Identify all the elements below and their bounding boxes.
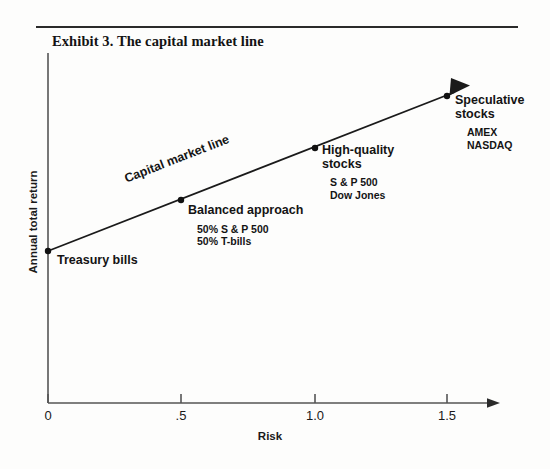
x-tick-label-0: 0: [28, 408, 68, 423]
annotation-high-quality-stocks-sub2: Dow Jones: [330, 189, 394, 202]
x-axis-arrowhead: [487, 398, 500, 408]
annotation-high-quality-stocks-title-line1: High-quality: [322, 144, 394, 158]
x-tick-label-1-0: 1.0: [295, 408, 335, 423]
annotation-speculative-stocks-title: Speculative stocks: [455, 94, 524, 121]
annotation-speculative-stocks-sub1: AMEX: [467, 126, 524, 139]
annotation-high-quality-stocks-sub1: S & P 500: [330, 176, 394, 189]
x-tick-label-0-5: .5: [161, 408, 201, 423]
annotation-high-quality-stocks-title-line2: stocks: [322, 158, 394, 172]
data-point-speculative-stocks: [444, 93, 450, 99]
annotation-balanced-approach-sublines: 50% S & P 500 50% T-bills: [197, 223, 303, 248]
x-axis-title: Risk: [220, 430, 320, 442]
annotation-balanced-approach: Balanced approach 50% S & P 500 50% T-bi…: [188, 204, 303, 248]
data-point-treasury-bills: [45, 248, 51, 254]
annotation-speculative-stocks-sublines: AMEX NASDAQ: [467, 126, 524, 151]
annotation-treasury-bills-title: Treasury bills: [57, 254, 138, 268]
data-point-high-quality-stocks: [312, 145, 318, 151]
annotation-speculative-stocks-title-line2: stocks: [455, 108, 524, 122]
annotation-treasury-bills: Treasury bills: [57, 254, 138, 268]
y-axis-title: Annual total return: [27, 162, 39, 282]
annotation-balanced-approach-title: Balanced approach: [188, 204, 303, 218]
annotation-speculative-stocks-title-line1: Speculative: [455, 94, 524, 108]
annotation-high-quality-stocks-title: High-quality stocks: [322, 144, 394, 171]
annotation-high-quality-stocks-sublines: S & P 500 Dow Jones: [330, 176, 394, 201]
annotation-speculative-stocks-sub2: NASDAQ: [467, 139, 524, 152]
annotation-high-quality-stocks: High-quality stocks S & P 500 Dow Jones: [322, 144, 394, 201]
exhibit-figure: Exhibit 3. The capital market line Capit…: [0, 0, 550, 469]
data-point-balanced-approach: [178, 197, 184, 203]
annotation-balanced-approach-sub2: 50% T-bills: [197, 235, 303, 248]
x-tick-label-1-5: 1.5: [427, 408, 467, 423]
annotation-balanced-approach-sub1: 50% S & P 500: [197, 223, 303, 236]
annotation-speculative-stocks: Speculative stocks AMEX NASDAQ: [455, 94, 524, 151]
